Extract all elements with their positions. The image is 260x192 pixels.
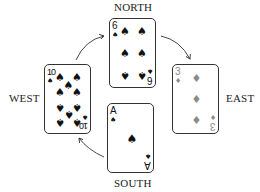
diamond-icon: ♦ [192,94,202,105]
card-rank: 6 [147,75,153,85]
spade-icon: ♠ [55,87,65,98]
spade-icon: ♠ [72,87,82,98]
diamond-icon: ♦ [192,115,202,126]
spade-icon: ♠ [120,48,130,59]
card-rank: 6 [112,21,118,31]
spade-icon: ♠ [47,78,53,85]
card-rank: 10 [47,67,55,77]
spade-icon: ♠ [112,32,118,39]
diamond-icon: ♦ [192,73,202,84]
card-rank: 10 [80,121,88,131]
spade-icon: ♠ [137,48,147,59]
spade-icon: ♠ [120,26,130,37]
diamond-icon: ♦ [175,78,181,85]
spade-icon: ♠ [127,134,138,145]
spade-icon: ♠ [137,26,147,37]
spade-icon: ♠ [82,113,88,120]
arrow-west-to-north [76,36,104,60]
arrow-north-to-east [161,36,190,59]
spade-icon: ♠ [120,70,130,81]
card-rank: A [144,160,151,170]
spade-icon: ♠ [110,117,116,124]
spade-icon: ♠ [55,117,65,128]
spade-icon: ♠ [72,72,82,83]
card-rank: 3 [210,121,216,131]
spade-icon: ♠ [147,67,153,74]
east-card[interactable]: 3 ♦ ♦ ♦ ♦ ♦ 3 [172,64,219,134]
card-rank: 3 [175,67,181,77]
west-card[interactable]: 10 ♠ ♠ ♠ ♠ ♠ ♠ ♠ ♠ ♠ ♠ ♠ ♠ 10 [44,64,91,134]
diamond-icon: ♦ [210,113,216,120]
south-card[interactable]: A ♠ ♠ ♠ A [107,103,154,173]
arrow-south-to-west [79,138,104,157]
card-rank: A [110,106,117,116]
spade-icon: ♠ [137,70,147,81]
north-card[interactable]: 6 ♠ ♠ ♠ ♠ ♠ ♠ ♠ ♠ 6 [109,18,156,88]
spade-icon: ♠ [145,152,151,159]
